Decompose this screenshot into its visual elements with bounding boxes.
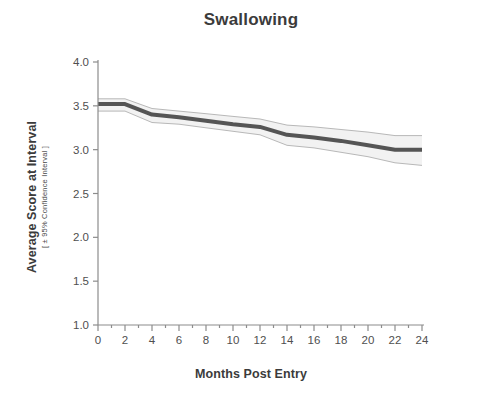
svg-text:8: 8 — [203, 334, 209, 346]
svg-text:18: 18 — [335, 334, 348, 346]
confidence-interval-band — [98, 99, 422, 166]
svg-text:4: 4 — [149, 334, 156, 346]
plot-area: 024681012141618202224 1.01.52.02.53.03.5… — [0, 0, 502, 395]
chart-container: Swallowing Average Score at Interval [ ±… — [0, 0, 502, 395]
svg-text:2.0: 2.0 — [73, 231, 89, 243]
svg-text:3.0: 3.0 — [73, 144, 89, 156]
svg-text:12: 12 — [254, 334, 267, 346]
svg-text:1.0: 1.0 — [73, 319, 89, 331]
svg-text:24: 24 — [416, 334, 429, 346]
svg-text:20: 20 — [362, 334, 375, 346]
svg-text:3.5: 3.5 — [73, 100, 89, 112]
svg-text:0: 0 — [95, 334, 101, 346]
svg-text:2.5: 2.5 — [73, 188, 89, 200]
svg-text:6: 6 — [176, 334, 182, 346]
svg-text:2: 2 — [122, 334, 128, 346]
svg-text:4.0: 4.0 — [73, 56, 89, 68]
svg-text:16: 16 — [308, 334, 321, 346]
svg-text:10: 10 — [227, 334, 240, 346]
axes — [98, 60, 424, 325]
svg-text:1.5: 1.5 — [73, 275, 89, 287]
svg-text:14: 14 — [281, 334, 294, 346]
y-axis-ticks: 1.01.52.02.53.03.54.0 — [73, 56, 98, 331]
svg-text:22: 22 — [389, 334, 402, 346]
x-axis-ticks: 024681012141618202224 — [95, 325, 429, 346]
